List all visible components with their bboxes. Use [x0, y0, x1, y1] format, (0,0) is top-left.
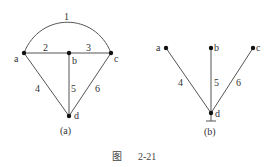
node-c	[251, 46, 255, 50]
graph-a: 1 2 3 4 5 6 a b c d (a)	[14, 11, 119, 137]
node-label-a: a	[14, 53, 19, 64]
node-label-d: d	[215, 108, 220, 119]
edge-label-3: 3	[86, 42, 91, 53]
caption-prefix: 图	[112, 151, 122, 162]
caption-number: 2-21	[138, 151, 156, 162]
node-label-c: c	[114, 53, 119, 64]
node-d	[67, 114, 71, 118]
node-a	[164, 46, 168, 50]
edge-label-6: 6	[236, 77, 241, 88]
edge-label-5: 5	[214, 77, 219, 88]
node-label-c: c	[256, 42, 261, 53]
node-c	[109, 51, 113, 55]
node-d	[209, 111, 213, 115]
node-label-a: a	[156, 42, 161, 53]
edge-label-6: 6	[95, 83, 100, 94]
node-a	[22, 51, 26, 55]
subfigure-label-a: (a)	[60, 125, 71, 137]
edge-4	[166, 48, 211, 113]
graph-b: 4 5 6 a b c d (b)	[156, 42, 261, 138]
node-b	[67, 51, 71, 55]
edge-label-5: 5	[71, 83, 76, 94]
edge-label-2: 2	[43, 42, 48, 53]
node-label-b: b	[72, 55, 77, 66]
subfigure-label-b: (b)	[204, 126, 216, 138]
edge-label-4: 4	[35, 83, 40, 94]
figure-caption: 图 2-21	[112, 151, 156, 162]
edge-label-1: 1	[64, 11, 69, 22]
edge-label-4: 4	[178, 77, 183, 88]
edge-4	[24, 53, 69, 116]
node-label-b: b	[214, 42, 219, 53]
edge-1-arc	[24, 22, 111, 53]
node-label-d: d	[74, 110, 79, 121]
node-b	[209, 46, 213, 50]
figure-2-21: 1 2 3 4 5 6 a b c d (a) 4 5 6 a b c d (b…	[0, 0, 277, 167]
